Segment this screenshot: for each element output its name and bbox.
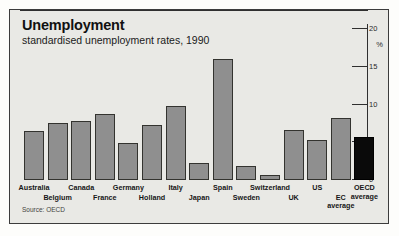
x-label-italy: Italy [168,184,182,193]
x-label-australia: Australia [19,184,50,193]
chart-figure: Unemployment standardised unemployment r… [0,0,399,236]
bar-germany [118,143,138,180]
bar-ec-average [331,118,351,180]
x-label-germany: Germany [113,184,144,193]
bar-uk [284,130,304,180]
bar-france [95,114,115,180]
x-label-belgium: Belgium [43,194,71,203]
bar-switzerland [260,175,280,180]
x-label-oecd-average: OECDaverage [351,184,378,201]
bar-oecd-average [354,137,374,180]
x-label-us: US [312,184,322,193]
bar-italy [166,106,186,180]
x-label-canada: Canada [68,184,94,193]
x-label-sweden: Sweden [233,194,260,203]
bar-us [307,140,327,180]
bar-spain [213,59,233,180]
chart-frame: Unemployment standardised unemployment r… [9,9,389,224]
plot-area: Unemployment standardised unemployment r… [10,10,390,225]
bar-canada [71,121,91,180]
x-label-switzerland: Switzerland [250,184,290,193]
bar-sweden [236,166,256,180]
bar-belgium [48,123,68,180]
bar-holland [142,125,162,180]
bar-japan [189,163,209,180]
bar-australia [24,131,44,180]
x-label-france: France [93,194,117,203]
x-label-uk: UK [288,194,298,203]
x-label-japan: Japan [189,194,210,203]
x-label-spain: Spain [213,184,233,193]
x-label-holland: Holland [139,194,165,203]
